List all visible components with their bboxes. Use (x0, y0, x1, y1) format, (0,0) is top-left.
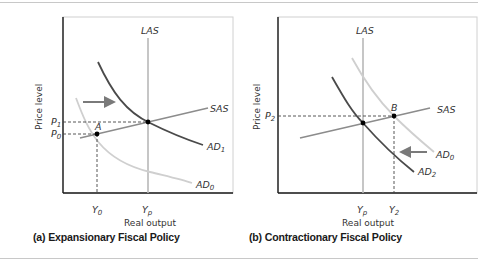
panel-b-new-equilibrium-point (361, 121, 366, 126)
panel-b-y-axis-title: Price level (252, 84, 262, 130)
panel-b-point-b-label: B (391, 102, 398, 113)
panel-a-ad1-curve (98, 62, 203, 145)
panel-a-y-axis-title: Price level (34, 84, 44, 130)
panel-b-p2-label: P2 (265, 110, 276, 123)
panel-a-ad0-label: AD0 (195, 179, 215, 192)
panel-a-ad1-label: AD1 (206, 141, 225, 154)
panel-b-contractionary: LAS AD0 AD2 SAS B P2 Yp Y2 Real output P… (252, 17, 477, 228)
panel-b-point-b (392, 114, 397, 119)
panel-a-y0-label: Y0 (92, 204, 103, 217)
panel-b-ad0-label: AD0 (435, 149, 455, 162)
panel-a-ad0-curve (76, 98, 192, 183)
panel-b-caption: (b) Contractionary Fiscal Policy (249, 231, 402, 243)
panel-b-x-axis-title: Real output (342, 218, 394, 228)
panel-b-yp-label: Yp (357, 204, 368, 217)
bottom-divider (0, 258, 478, 259)
panel-a-point-a (95, 132, 100, 137)
panel-b-ad2-label: AD2 (417, 166, 437, 179)
panel-a-caption: (a) Expansionary Fiscal Policy (33, 231, 180, 243)
panel-a-point-a-label: A (94, 121, 102, 132)
panel-a-yp-label: Yp (142, 204, 153, 217)
panel-a-sas-label: SAS (210, 103, 229, 114)
fiscal-policy-diagram: LAS AD0 AD1 SAS A P1 P0 Y0 Yp Real outpu… (0, 0, 486, 264)
panel-a-las-label: LAS (141, 25, 159, 36)
panel-a-expansionary: LAS AD0 AD1 SAS A P1 P0 Y0 Yp Real outpu… (34, 17, 233, 228)
panel-a-new-equilibrium-point (146, 120, 151, 125)
panel-a-x-axis-title: Real output (124, 218, 176, 228)
panel-a-p0-label: P0 (51, 128, 62, 141)
panel-b-sas-label: SAS (437, 104, 456, 115)
panel-b-las-label: LAS (356, 25, 374, 36)
panel-b-y2-label: Y2 (389, 204, 400, 217)
